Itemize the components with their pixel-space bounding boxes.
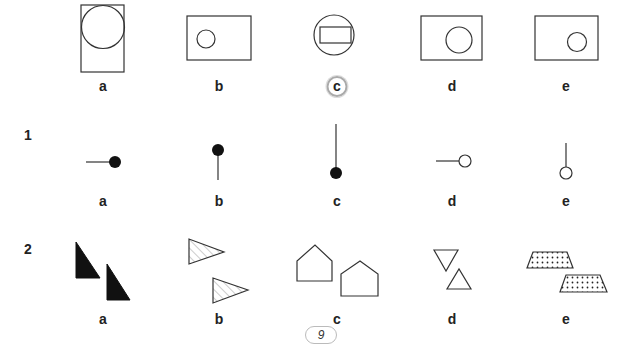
example-option-a: [81, 5, 125, 72]
page-number-badge: 9: [305, 326, 337, 344]
question-number-2: 2: [24, 241, 32, 257]
q2-option-d: [434, 250, 471, 289]
example-answer-label-c: c: [327, 76, 348, 97]
q2-label-c: c: [333, 311, 341, 327]
q2-label-d: d: [448, 311, 457, 327]
q1-option-d: [436, 155, 471, 167]
q2-label-a: a: [99, 311, 107, 327]
example-label-b: b: [215, 78, 224, 94]
q1-label-d: d: [448, 193, 457, 209]
example-label-d: d: [448, 78, 457, 94]
q1-option-c: [330, 124, 342, 179]
q1-option-a: [86, 156, 121, 168]
q2-option-b: [189, 239, 248, 303]
q1-label-e: e: [562, 193, 570, 209]
example-option-d: [421, 16, 482, 60]
q1-label-a: a: [99, 193, 107, 209]
example-option-e: [535, 16, 598, 60]
q2-label-b: b: [215, 311, 224, 327]
puzzle-figure: [0, 0, 636, 354]
example-option-b: [187, 16, 251, 60]
q2-option-e: [527, 252, 607, 292]
q1-label-c: c: [333, 193, 341, 209]
q1-option-e: [560, 143, 572, 179]
q2-option-c: [297, 245, 378, 296]
q2-option-a: [76, 242, 130, 300]
q2-label-e: e: [562, 311, 570, 327]
example-option-c: [314, 15, 354, 55]
example-label-a: a: [99, 78, 107, 94]
question-number-1: 1: [24, 127, 32, 143]
q1-label-b: b: [215, 193, 224, 209]
example-label-e: e: [562, 78, 570, 94]
q1-option-b: [212, 144, 224, 180]
